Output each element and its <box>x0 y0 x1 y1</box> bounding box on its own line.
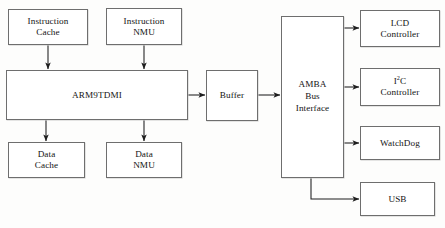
node-usb[interactable]: USB <box>360 182 435 216</box>
node-arm9tdmi-label: ARM9TDMI <box>70 90 124 101</box>
node-arm9tdmi[interactable]: ARM9TDMI <box>6 70 188 120</box>
node-amba-bus-interface[interactable]: AMBA Bus Interface <box>281 16 344 178</box>
node-i2c-controller-label: I2CController <box>379 76 422 97</box>
node-usb-label: USB <box>386 194 408 205</box>
node-amba-bus-interface-label: AMBA Bus Interface <box>294 79 332 115</box>
node-buffer[interactable]: Buffer <box>206 70 258 121</box>
node-instruction-cache[interactable]: Instruction Cache <box>8 9 88 45</box>
node-instruction-nmu-label: Instruction NMU <box>122 16 167 37</box>
node-instruction-cache-label: Instruction Cache <box>26 16 71 37</box>
wire-amba-to-usb <box>311 179 359 199</box>
node-watchdog-label: WatchDog <box>378 138 422 149</box>
node-data-nmu-label: Data NMU <box>131 149 157 170</box>
block-diagram: Instruction Cache Instruction NMU ARM9TD… <box>0 0 445 228</box>
node-data-cache[interactable]: Data Cache <box>8 142 85 178</box>
node-data-cache-label: Data Cache <box>33 149 60 170</box>
node-watchdog[interactable]: WatchDog <box>360 126 440 160</box>
node-data-nmu[interactable]: Data NMU <box>106 142 182 178</box>
node-lcd-controller[interactable]: LCD Controller <box>360 10 440 47</box>
node-buffer-label: Buffer <box>218 90 246 101</box>
node-lcd-controller-label: LCD Controller <box>379 18 422 39</box>
node-i2c-controller[interactable]: I2CController <box>360 68 440 106</box>
node-instruction-nmu[interactable]: Instruction NMU <box>106 8 182 45</box>
